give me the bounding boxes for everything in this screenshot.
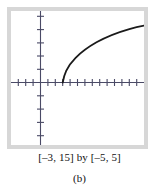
viewing-window-caption: [–3, 15] by [–5, 5] — [0, 150, 159, 164]
calculator-screen-frame — [7, 7, 148, 149]
function-curve — [63, 26, 144, 83]
panel-label: (b) — [0, 171, 159, 185]
caption-block: [–3, 15] by [–5, 5] (b) — [0, 150, 159, 185]
plot-area — [11, 11, 144, 145]
graph-svg — [11, 11, 144, 145]
figure-panel-b: [–3, 15] by [–5, 5] (b) — [0, 0, 159, 193]
